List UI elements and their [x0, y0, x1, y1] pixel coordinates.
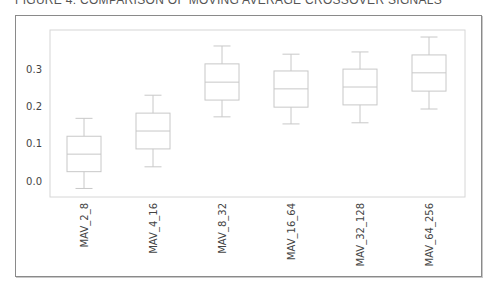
- x-tick-label: MAV_16_64: [286, 203, 298, 260]
- y-tick-label: 0.1: [26, 138, 42, 149]
- x-tick-label: MAV_8_32: [217, 203, 229, 254]
- boxplot-chart: 0.00.10.20.3 MAV_2_8MAV_4_16MAV_8_32MAV_…: [0, 0, 498, 287]
- x-tick-label: MAV_64_256: [424, 203, 436, 266]
- x-axis: MAV_2_8MAV_4_16MAV_8_32MAV_16_64MAV_32_1…: [79, 203, 436, 266]
- plot-area: [50, 30, 465, 197]
- x-tick-label: MAV_4_16: [148, 203, 160, 254]
- y-axis: 0.00.10.20.3: [26, 64, 42, 187]
- y-tick-label: 0.2: [26, 101, 42, 112]
- y-tick-label: 0.3: [26, 64, 42, 75]
- y-tick-label: 0.0: [26, 176, 42, 187]
- x-tick-label: MAV_2_8: [79, 203, 91, 247]
- x-tick-label: MAV_32_128: [355, 203, 367, 266]
